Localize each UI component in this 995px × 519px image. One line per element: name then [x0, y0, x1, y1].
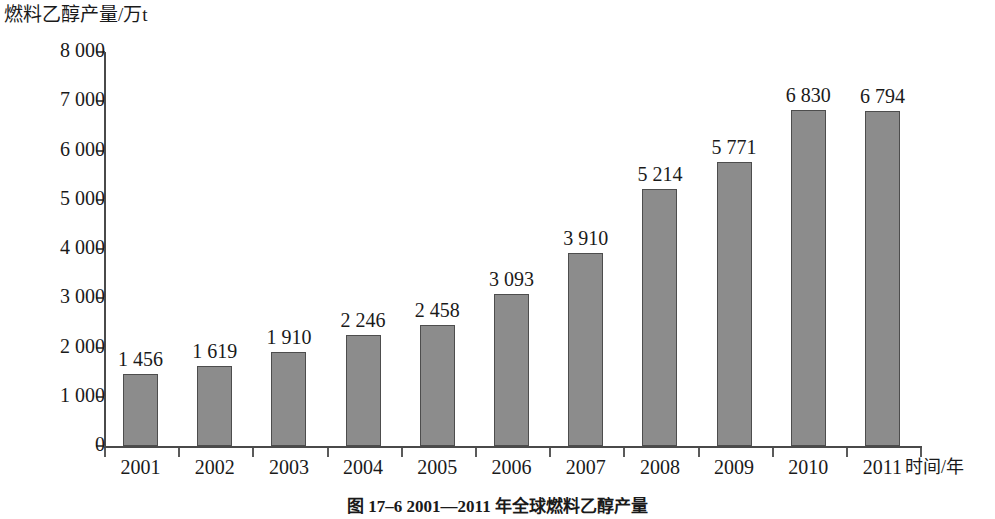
bar	[494, 294, 529, 446]
y-axis-tick-label: 1 000	[13, 385, 105, 405]
bar	[865, 111, 900, 446]
y-axis-tick: 6 000	[0, 150, 105, 152]
y-axis-tick: 7 000	[0, 100, 105, 102]
y-axis-tick-label: 6 000	[13, 139, 105, 159]
y-axis-tick-label: 5 000	[13, 188, 105, 208]
y-axis-tick: 1 000	[0, 396, 105, 398]
bar-value-label: 3 910	[541, 227, 631, 249]
bar-value-label: 6 794	[838, 85, 928, 107]
bar	[197, 366, 232, 446]
bar-value-label: 5 771	[689, 136, 779, 158]
bar	[271, 352, 306, 446]
x-axis-title: 时间/年	[905, 456, 964, 478]
chart-plot-area: 01 0002 0003 0004 0005 0006 0007 0008 00…	[0, 0, 995, 519]
y-axis-tick: 3 000	[0, 297, 105, 299]
y-axis-tick: 0	[0, 445, 105, 447]
bar	[123, 374, 158, 446]
y-axis-tick: 8 000	[0, 51, 105, 53]
bar	[791, 110, 826, 446]
bar-value-label: 2 458	[392, 299, 482, 321]
y-axis-tick-label: 7 000	[13, 89, 105, 109]
bar-value-label: 5 214	[615, 163, 705, 185]
y-axis-tick-label: 0	[13, 434, 105, 454]
bar	[642, 189, 677, 446]
bar-value-label: 3 093	[467, 268, 557, 290]
y-axis-tick: 4 000	[0, 248, 105, 250]
bar	[420, 325, 455, 446]
bar	[346, 335, 381, 446]
y-axis-tick-label: 8 000	[13, 40, 105, 60]
figure-caption: 图 17–6 2001—2011 年全球燃料乙醇产量	[0, 497, 995, 517]
y-axis-tick-label: 4 000	[13, 237, 105, 257]
x-axis-line	[104, 446, 922, 448]
y-axis-tick-label: 3 000	[13, 286, 105, 306]
bar	[568, 253, 603, 446]
y-axis-tick-label: 2 000	[13, 336, 105, 356]
bar	[717, 162, 752, 446]
y-axis-tick: 2 000	[0, 347, 105, 349]
y-axis-tick: 5 000	[0, 199, 105, 201]
